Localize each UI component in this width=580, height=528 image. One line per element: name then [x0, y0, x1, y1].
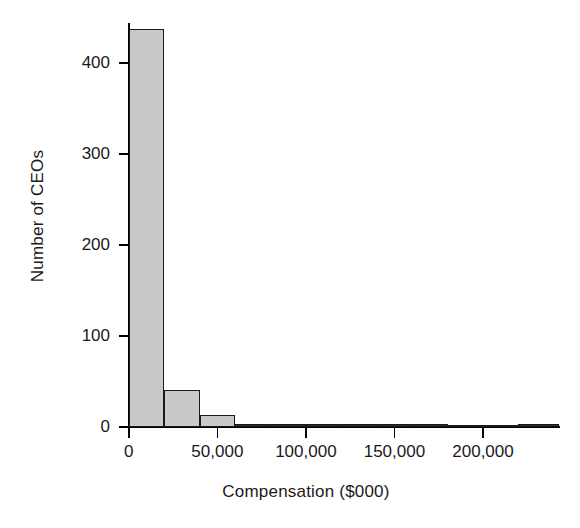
x-tick-mark	[482, 428, 484, 438]
y-tick-label: 200	[56, 236, 110, 253]
y-tick-mark	[119, 335, 128, 337]
y-tick-label: 400	[56, 54, 110, 71]
x-tick-label: 150,000	[364, 443, 425, 460]
histogram-bar	[448, 425, 483, 427]
y-tick-mark	[119, 426, 128, 428]
x-tick-label: 0	[124, 443, 133, 460]
histogram-bar	[412, 424, 447, 427]
x-tick-label: 200,000	[452, 443, 513, 460]
histogram-bar	[341, 424, 376, 427]
x-tick-mark	[305, 428, 307, 438]
histogram-bar	[518, 424, 559, 427]
histogram-figure: 0100200300400 050,000100,000150,000200,0…	[0, 0, 580, 528]
x-tick-mark	[394, 428, 396, 438]
y-tick-label: 0	[56, 418, 110, 435]
x-tick-mark	[217, 428, 219, 438]
x-tick-mark	[128, 428, 130, 438]
histogram-bar	[377, 424, 412, 427]
y-tick-mark	[119, 244, 128, 246]
histogram-bar	[129, 29, 164, 427]
y-tick-mark	[119, 153, 128, 155]
histogram-bar	[483, 425, 518, 427]
histogram-bar	[200, 415, 235, 427]
y-tick-mark	[119, 62, 128, 64]
x-tick-label: 100,000	[275, 443, 336, 460]
y-tick-label: 300	[56, 145, 110, 162]
histogram-bar	[270, 424, 305, 427]
histogram-bar	[164, 390, 199, 427]
y-tick-label: 100	[56, 327, 110, 344]
histogram-bar	[235, 424, 270, 427]
plot-area: 0100200300400 050,000100,000150,000200,0…	[0, 0, 580, 528]
x-axis-label: Compensation ($000)	[128, 482, 484, 502]
y-axis-label: Number of CEOs	[28, 116, 48, 316]
x-tick-label: 50,000	[191, 443, 243, 460]
histogram-bar	[306, 424, 341, 427]
